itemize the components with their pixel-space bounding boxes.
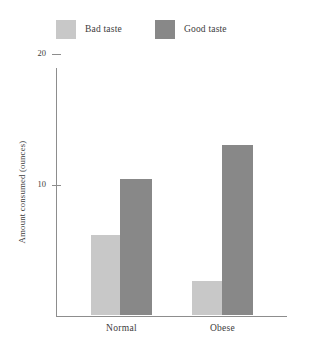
legend-label-good-taste: Good taste [184, 24, 227, 34]
bar-normal-bad-taste [91, 235, 120, 315]
bar-obese-good-taste [222, 145, 253, 315]
chart-legend: Bad taste Good taste [56, 18, 227, 40]
bar-normal-good-taste [120, 179, 152, 315]
y-axis-title: Amount consumed (ounces) [14, 68, 30, 316]
chart-plot-area: 20 10 [56, 68, 287, 316]
x-axis-line [56, 316, 287, 317]
y-axis-line [56, 68, 57, 317]
legend-swatch-good-taste [155, 20, 175, 39]
y-axis-tick-label-20: 20 [38, 48, 47, 58]
legend-entry-bad-taste: Bad taste [56, 18, 122, 40]
y-axis-title-container: Amount consumed (ounces) [14, 68, 30, 316]
x-axis-category-label-normal: Normal [91, 323, 152, 333]
bar-obese-bad-taste [192, 281, 222, 315]
legend-swatch-bad-taste [56, 20, 76, 39]
y-axis-tick-label-10: 10 [38, 179, 47, 189]
legend-label-bad-taste: Bad taste [85, 24, 122, 34]
y-axis-tick-20: 20 [52, 54, 61, 55]
x-axis-category-label-obese: Obese [192, 323, 253, 333]
y-axis-tick-10: 10 [52, 185, 61, 186]
legend-entry-good-taste: Good taste [155, 18, 227, 40]
